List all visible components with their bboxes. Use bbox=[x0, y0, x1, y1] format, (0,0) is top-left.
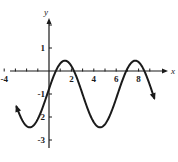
y-tick-label: 1 bbox=[41, 43, 46, 53]
x-tick-label: 6 bbox=[114, 74, 119, 84]
x-tick-label: -4 bbox=[0, 74, 8, 84]
curve-end-arrow-icon bbox=[150, 92, 156, 100]
y-axis-arrow-icon bbox=[47, 18, 52, 24]
tick-labels: -424681-12-3 bbox=[0, 43, 141, 145]
x-axis-arrow-icon bbox=[162, 69, 168, 74]
y-tick-label: -1 bbox=[38, 89, 46, 99]
function-graph: xy -424681-12-3 bbox=[0, 0, 178, 162]
x-axis-label: x bbox=[170, 66, 175, 76]
x-tick-label: 2 bbox=[69, 74, 74, 84]
y-tick-label: -3 bbox=[38, 135, 46, 145]
y-axis-label: y bbox=[43, 7, 48, 17]
x-tick-label: 4 bbox=[92, 74, 97, 84]
axis-ticks bbox=[4, 25, 150, 140]
x-tick-label: 8 bbox=[136, 74, 141, 84]
curve-start-arrow-icon bbox=[15, 105, 21, 113]
